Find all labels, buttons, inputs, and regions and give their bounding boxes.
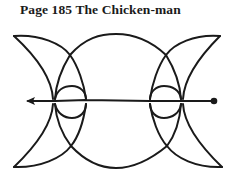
central-right-bottom-inner bbox=[150, 104, 167, 146]
left-crescent-inner bbox=[14, 36, 53, 99]
central-bottom-arc bbox=[71, 146, 167, 168]
right-inner-circle-bottom bbox=[150, 104, 181, 118]
left-inner-circle-top bbox=[55, 86, 86, 99]
right-crescent-inner bbox=[183, 36, 220, 99]
left-crescent-lower-inner bbox=[14, 104, 53, 167]
left-inner-circle-bottom bbox=[55, 104, 86, 118]
central-top-arc bbox=[70, 34, 166, 55]
horizontal-line bbox=[28, 100, 213, 101]
chicken-man-figure bbox=[0, 0, 230, 187]
right-endpoint-dot-icon bbox=[211, 98, 218, 105]
right-inner-circle-top bbox=[150, 86, 181, 99]
right-crescent-lower-inner bbox=[183, 104, 222, 167]
